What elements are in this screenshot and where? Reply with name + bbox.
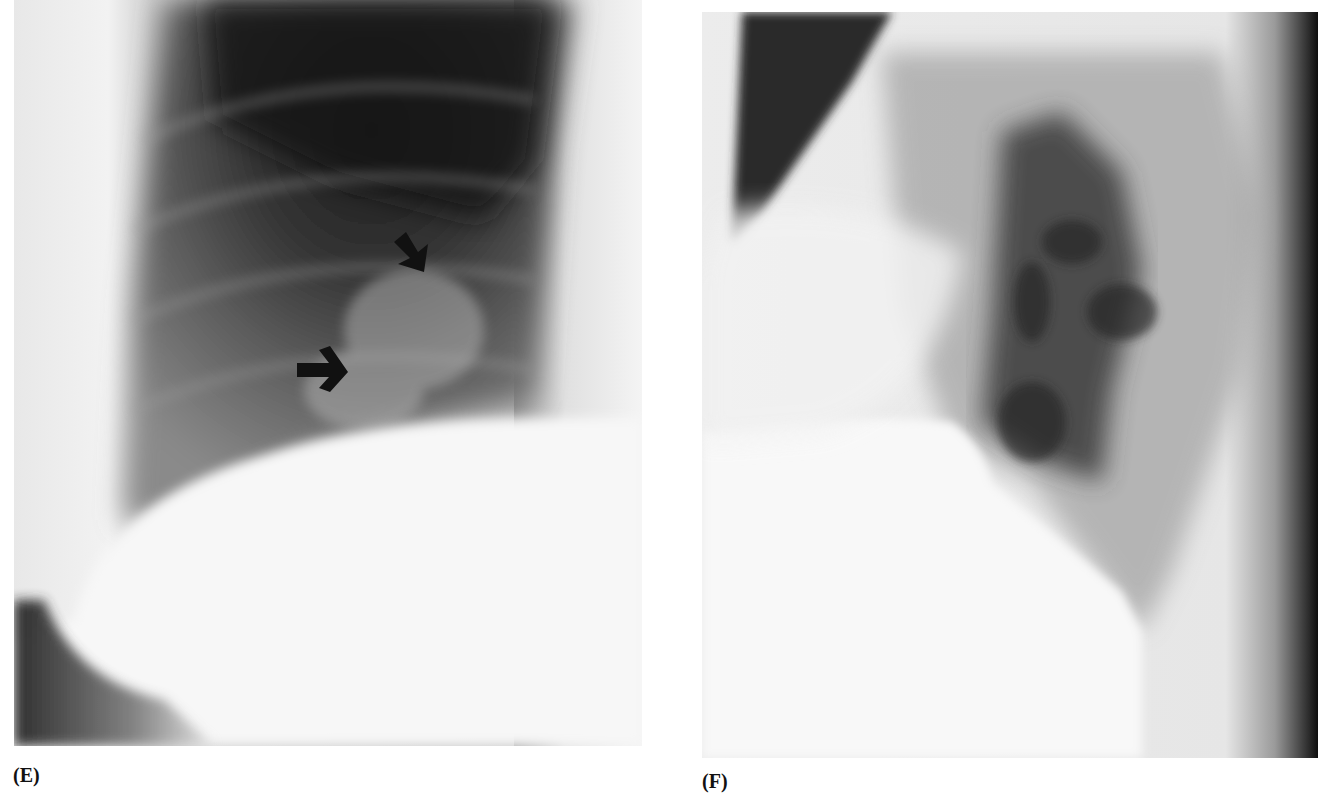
radiograph-panel-e (14, 0, 642, 746)
radiograph-figure: (E) (0, 0, 1321, 806)
radiograph-panel-f (702, 12, 1318, 758)
radiograph-e-image (14, 0, 642, 746)
panel-label-f: (F) (702, 770, 728, 793)
panel-label-e: (E) (13, 764, 40, 787)
radiograph-f-image (702, 12, 1318, 758)
